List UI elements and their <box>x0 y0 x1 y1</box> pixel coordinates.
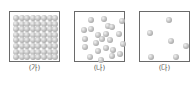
particle <box>98 57 104 63</box>
particle <box>93 40 99 46</box>
panel-da-label: (다) <box>139 64 190 73</box>
particle <box>183 43 189 49</box>
particle <box>95 48 101 54</box>
particle <box>120 41 126 47</box>
particle <box>82 44 88 50</box>
particle <box>117 51 123 57</box>
particle <box>88 17 94 23</box>
particle <box>101 16 107 22</box>
particle <box>88 26 94 32</box>
particle <box>99 36 105 42</box>
particle <box>148 54 154 60</box>
particle <box>52 54 58 60</box>
particle <box>173 54 179 60</box>
panel-ga <box>9 11 60 62</box>
panel-ga-label: (가) <box>9 64 60 73</box>
particle <box>166 17 172 23</box>
panel-na-label: (나) <box>74 64 125 73</box>
particle <box>81 27 87 33</box>
particle <box>109 24 115 30</box>
particle <box>107 37 113 43</box>
particle <box>109 53 115 59</box>
particle <box>119 18 125 24</box>
particle <box>147 30 153 36</box>
particle <box>103 45 109 51</box>
panel-na <box>74 11 125 62</box>
panel-da <box>139 11 190 62</box>
particle <box>87 54 93 60</box>
particle <box>168 38 174 44</box>
particle <box>116 31 122 37</box>
particle <box>82 36 88 42</box>
